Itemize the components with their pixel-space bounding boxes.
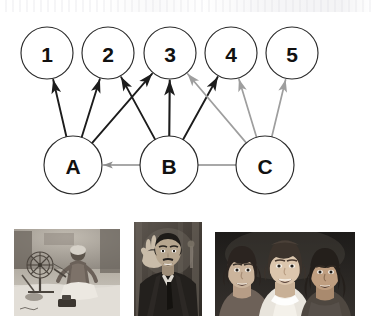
edge-B-to-4 [183, 77, 218, 140]
edge-B-to-3 [169, 81, 170, 138]
edge-A-to-2 [81, 79, 99, 138]
node-label-4: 4 [225, 43, 237, 66]
edge-C-to-5 [272, 80, 286, 138]
node-3[interactable]: 3 [144, 27, 196, 79]
node-B[interactable]: B [140, 136, 198, 194]
node-4[interactable]: 4 [205, 27, 257, 79]
node-label-1: 1 [41, 43, 53, 66]
bipartite-graph-diagram: 12345ABC [0, 0, 371, 205]
node-label-5: 5 [286, 43, 298, 66]
node-A[interactable]: A [44, 136, 102, 194]
node-C[interactable]: C [236, 136, 294, 194]
node-1[interactable]: 1 [21, 27, 73, 79]
photo-strip [0, 215, 371, 334]
three-women-portrait-photo [215, 232, 355, 316]
node-2[interactable]: 2 [82, 27, 134, 79]
edge-C-to-3 [188, 74, 247, 144]
edge-C-to-4 [239, 79, 257, 138]
martin-luther-king-speaking-photo [134, 222, 202, 316]
edge-A-to-3 [91, 74, 152, 144]
gandhi-spinning-wheel-photo [14, 229, 120, 316]
edge-B-to-2 [121, 77, 155, 140]
node-5[interactable]: 5 [266, 27, 318, 79]
node-label-B: B [161, 155, 176, 178]
page-root: 12345ABC [0, 0, 371, 334]
node-label-2: 2 [102, 43, 114, 66]
node-label-C: C [257, 155, 272, 178]
node-label-A: A [65, 155, 80, 178]
node-label-3: 3 [164, 43, 176, 66]
edge-A-to-1 [53, 80, 66, 138]
